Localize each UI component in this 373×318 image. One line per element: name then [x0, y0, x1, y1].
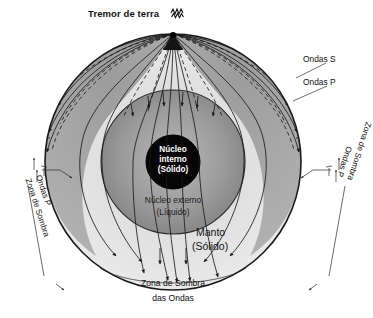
inner-core-label: Núcleo interno (Sólido)	[158, 145, 189, 174]
mantle-line1: Manto	[196, 226, 225, 238]
shadow-zone-right-marker	[301, 158, 345, 290]
inner-core-line1: Núcleo	[159, 145, 186, 154]
bottom-caption-line1: Zona de Sombra	[141, 278, 205, 288]
ondas-s-label: Ondas S	[303, 54, 336, 64]
bottom-caption-line2: das Ondas	[152, 293, 194, 303]
figure-title: Tremor de terra	[88, 8, 160, 19]
inner-core-line2: interno	[159, 155, 187, 164]
ondas-p-label: Ondas P	[303, 77, 336, 87]
seismic-wave-diagram: Tremor de terra Ondas S Ondas P Núcleo i…	[0, 0, 373, 318]
outer-core-line2: (Líquido)	[156, 207, 189, 217]
inner-core-line3: (Sólido)	[158, 165, 189, 174]
callout-ondas-p: Ondas P	[293, 77, 336, 101]
callout-ondas-s: Ondas S	[296, 54, 336, 78]
shadow-zone-right-text: Ondas P Zona de Sombra	[335, 117, 373, 182]
seismogram-squiggle-icon	[171, 9, 184, 18]
outer-core-line1: Núcleo externo	[145, 195, 202, 205]
diagram-canvas: Tremor de terra Ondas S Ondas P Núcleo i…	[0, 0, 373, 318]
mantle-line2: (Sólido)	[192, 240, 228, 252]
